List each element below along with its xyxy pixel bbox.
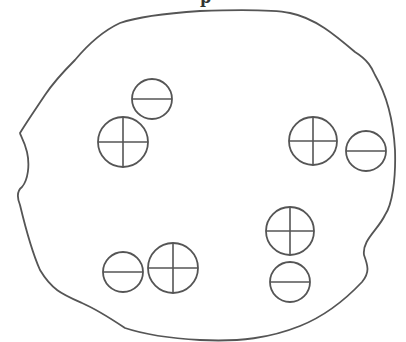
positive-charge-icon [148,243,198,293]
positive-charge-icon [289,117,337,165]
negative-charge-icon [132,79,172,119]
positive-charge-icon [266,207,314,255]
particles-group [98,79,386,302]
negative-charge-icon [103,252,143,292]
positive-charge-icon [98,117,148,167]
diagram-svg [0,0,406,342]
negative-charge-icon [346,131,386,171]
negative-charge-icon [270,262,310,302]
diagram-canvas: p [0,0,406,342]
boundary-outline [18,10,395,340]
